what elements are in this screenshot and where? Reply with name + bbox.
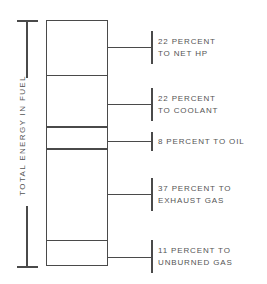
total-energy-bracket-tick-bottom <box>17 266 38 268</box>
callout-exhaust-gas: 37 PERCENT TO EXHAUST GAS <box>158 183 231 206</box>
energy-distribution-diagram: TOTAL ENERGY IN FUEL 22 PERCENT TO NET H… <box>0 0 267 284</box>
callout-unburned-gas: 11 PERCENT TO UNBURNED GAS <box>158 245 233 268</box>
leader-tick-net-hp <box>151 31 153 64</box>
bar-divider-coolant-oil <box>46 126 108 128</box>
leader-tick-unburned-gas <box>151 240 153 273</box>
callout-exhaust-gas-line1: 37 PERCENT TO <box>158 183 231 195</box>
callout-oil-line1: 8 PERCENT TO OIL <box>158 136 245 148</box>
callout-unburned-gas-line2: UNBURNED GAS <box>158 257 233 269</box>
callout-exhaust-gas-line2: EXHAUST GAS <box>158 195 231 207</box>
bar-divider-oil-exhaust <box>46 148 108 150</box>
leader-tick-exhaust-gas <box>151 178 153 211</box>
callout-coolant-line1: 22 PERCENT <box>158 93 218 105</box>
leader-line-unburned-gas <box>108 257 152 258</box>
total-energy-axis-label: TOTAL ENERGY IN FUEL <box>18 66 27 206</box>
leader-tick-coolant <box>151 88 153 121</box>
bar-divider-exhaust-unburned <box>46 240 108 242</box>
callout-oil: 8 PERCENT TO OIL <box>158 136 245 148</box>
leader-line-net-hp <box>108 47 152 48</box>
leader-line-exhaust-gas <box>108 194 152 195</box>
leader-line-oil <box>108 141 152 142</box>
callout-net-hp-line1: 22 PERCENT <box>158 36 216 48</box>
bar-divider-net-hp-coolant <box>46 75 108 77</box>
stacked-bar <box>46 20 108 266</box>
leader-tick-oil <box>151 132 153 151</box>
callout-coolant: 22 PERCENT TO COOLANT <box>158 93 218 116</box>
callout-net-hp: 22 PERCENT TO NET HP <box>158 36 216 59</box>
callout-unburned-gas-line1: 11 PERCENT TO <box>158 245 233 257</box>
total-energy-bracket-tick-top <box>17 20 38 22</box>
leader-line-coolant <box>108 104 152 105</box>
callout-net-hp-line2: TO NET HP <box>158 48 216 60</box>
callout-coolant-line2: TO COOLANT <box>158 105 218 117</box>
